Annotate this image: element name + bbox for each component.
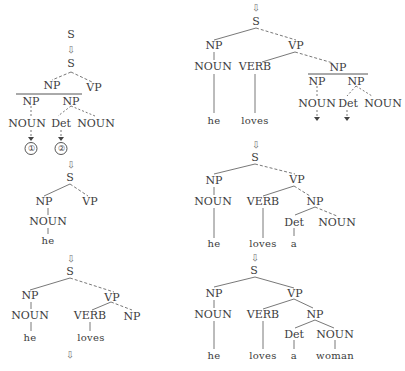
marker-1: ①	[25, 142, 38, 155]
word-he: he	[24, 332, 37, 344]
node-np-2: NP	[347, 76, 364, 88]
derivation-arrow-icon: ⇩	[67, 160, 75, 170]
node-np: NP	[35, 196, 52, 208]
word-loves: loves	[249, 350, 276, 362]
node-s: S	[66, 172, 74, 184]
node-np-1: NP	[308, 76, 325, 88]
marker-2: ②	[55, 142, 68, 155]
node-s: S	[251, 152, 259, 164]
word-a: a	[291, 238, 297, 250]
node-s-root: S	[67, 29, 75, 41]
node-np: NP	[205, 288, 222, 300]
node-verb: VERB	[247, 196, 279, 208]
word-he: he	[208, 115, 221, 127]
word-he: he	[208, 238, 221, 250]
node-np: NP	[205, 40, 222, 52]
node-vp: VP	[86, 82, 101, 94]
node-det: Det	[284, 329, 304, 341]
node-noun: NOUN	[11, 310, 49, 322]
node-vp: VP	[104, 292, 119, 304]
node-np-2: NP	[62, 96, 79, 108]
node-verb: VERB	[239, 61, 271, 73]
node-vp: VP	[288, 40, 303, 52]
node-np: NP	[21, 290, 38, 302]
word-a: a	[291, 350, 297, 362]
node-vp: VP	[287, 288, 302, 300]
node-det: Det	[51, 118, 71, 130]
node-det: Det	[338, 98, 358, 110]
word-loves: loves	[241, 115, 268, 127]
node-noun: NOUN	[194, 61, 232, 73]
node-noun-obj: NOUN	[298, 98, 336, 110]
node-verb: VERB	[247, 309, 279, 321]
node-noun-2: NOUN	[77, 118, 115, 130]
node-s: S	[252, 16, 260, 28]
derivation-arrow-icon: ⇩	[251, 253, 259, 263]
node-noun: NOUN	[194, 309, 232, 321]
node-vp: VP	[289, 174, 304, 186]
word-woman: woman	[316, 350, 354, 362]
derivation-arrow-icon: ⇩	[66, 350, 74, 360]
node-noun: NOUN	[8, 118, 46, 130]
derivation-arrow-icon: ⇩	[67, 45, 75, 55]
node-np-1: NP	[22, 96, 39, 108]
node-np-object: NP	[306, 196, 323, 208]
node-np: NP	[205, 175, 222, 187]
word-loves: loves	[249, 238, 276, 250]
node-np-object: NP	[329, 62, 346, 74]
node-np-object: NP	[306, 309, 323, 321]
word-he: he	[42, 235, 55, 247]
node-noun: NOUN	[194, 196, 232, 208]
word-loves: loves	[77, 332, 104, 344]
node-noun: NOUN	[29, 216, 67, 228]
node-det: Det	[284, 217, 304, 229]
node-s: S	[66, 266, 74, 278]
node-verb: VERB	[74, 310, 106, 322]
node-np-object: NP	[123, 311, 140, 323]
node-np: NP	[43, 80, 60, 92]
derivation-arrow-icon: ⇩	[252, 140, 260, 150]
node-noun-obj: NOUN	[316, 329, 354, 341]
node-s: S	[250, 265, 258, 277]
node-noun-2: NOUN	[364, 98, 402, 110]
word-he: he	[208, 350, 221, 362]
node-s: S	[67, 58, 75, 70]
node-vp: VP	[82, 196, 97, 208]
derivation-arrow-icon: ⇩	[67, 254, 75, 264]
node-noun-obj: NOUN	[318, 217, 356, 229]
derivation-arrow-icon: ⇩	[252, 3, 260, 13]
